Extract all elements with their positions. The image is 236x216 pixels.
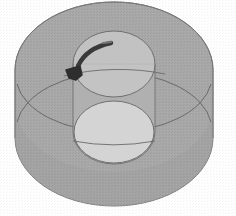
cylinder-diagram <box>0 0 236 216</box>
inner-cylinder-top <box>73 31 155 97</box>
inner-cylinder <box>64 31 165 164</box>
inner-cylinder-bottom <box>74 101 154 163</box>
arrow-tail-highlight <box>103 42 111 43</box>
